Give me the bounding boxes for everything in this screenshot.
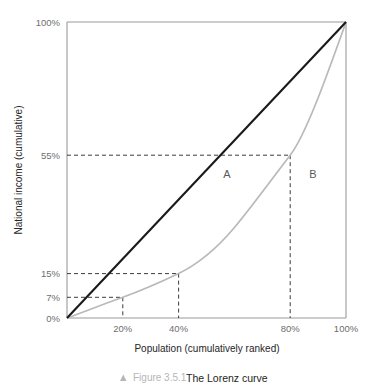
y-tick-55: 55% xyxy=(41,150,61,161)
region-label-a: A xyxy=(223,168,231,180)
caption-number: Figure 3.5.1 xyxy=(133,372,187,383)
y-tick-0: 0% xyxy=(46,313,60,324)
lorenz-curve-figure: 100% 55% 15% 7% 0% 20% 40% 80% 100% A B … xyxy=(0,0,378,390)
x-axis-title: Population (cumulatively ranked) xyxy=(134,343,279,354)
chart-canvas: 100% 55% 15% 7% 0% 20% 40% 80% 100% A B … xyxy=(0,0,378,390)
equality-line xyxy=(67,22,346,318)
caption-title: The Lorenz curve xyxy=(186,372,268,384)
x-tick-20: 20% xyxy=(113,323,133,334)
y-tick-15: 15% xyxy=(41,268,61,279)
x-tick-40: 40% xyxy=(169,323,189,334)
x-tick-100: 100% xyxy=(334,323,359,334)
x-tick-80: 80% xyxy=(281,323,301,334)
y-tick-7: 7% xyxy=(46,292,60,303)
triangle-up-icon xyxy=(120,375,127,382)
region-label-b: B xyxy=(309,168,316,180)
y-tick-100: 100% xyxy=(36,17,61,28)
y-axis-title: National income (cumulative) xyxy=(13,106,24,235)
